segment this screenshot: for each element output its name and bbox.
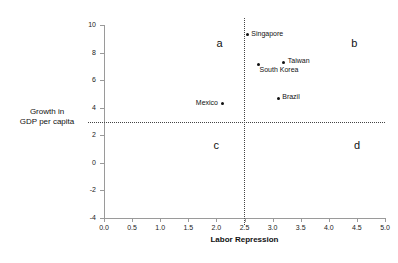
y-tick-label: 6 xyxy=(72,76,96,84)
data-point-label: Brazil xyxy=(282,93,300,101)
x-tick-label: 0.5 xyxy=(117,224,147,232)
x-tick-label: 1.0 xyxy=(145,224,175,232)
x-tick-label: 3.0 xyxy=(258,224,288,232)
data-point-label: Singapore xyxy=(251,30,283,38)
x-tick xyxy=(357,218,358,222)
quadrant-label-a: a xyxy=(216,37,222,49)
x-tick xyxy=(160,218,161,222)
data-point[interactable] xyxy=(282,61,285,64)
x-tick-label: 2.0 xyxy=(201,224,231,232)
x-axis-title: Labor Repression xyxy=(104,235,385,244)
data-point[interactable] xyxy=(246,33,249,36)
x-tick-label: 4.5 xyxy=(342,224,372,232)
y-tick-label: -4 xyxy=(72,214,96,222)
data-point-label: Mexico xyxy=(196,99,218,107)
x-tick xyxy=(301,218,302,222)
x-tick-label: 5.0 xyxy=(370,224,398,232)
reference-line-horizontal xyxy=(88,122,385,123)
x-tick xyxy=(385,218,386,222)
y-tick xyxy=(100,135,104,136)
quadrant-label-c: c xyxy=(214,139,220,151)
x-tick-label: 3.5 xyxy=(286,224,316,232)
y-tick-label: 10 xyxy=(72,21,96,29)
x-tick-label: 4.0 xyxy=(314,224,344,232)
x-tick-label: 0.0 xyxy=(89,224,119,232)
data-point[interactable] xyxy=(277,97,280,100)
y-axis-title-line-2: GDP per capita xyxy=(4,117,90,127)
scatter-chart-figure: 1086420-2-4 0.00.51.01.52.02.53.03.54.04… xyxy=(0,0,398,263)
x-tick xyxy=(245,218,246,222)
x-tick xyxy=(273,218,274,222)
y-axis-title: Growth in GDP per capita xyxy=(4,107,90,127)
x-tick xyxy=(188,218,189,222)
x-tick xyxy=(132,218,133,222)
x-tick xyxy=(104,218,105,222)
quadrant-label-b: b xyxy=(351,37,357,49)
y-tick-label: 0 xyxy=(72,159,96,167)
y-tick xyxy=(100,163,104,164)
y-tick xyxy=(100,80,104,81)
x-tick-label: 2.5 xyxy=(230,224,260,232)
data-point[interactable] xyxy=(221,102,224,105)
y-tick xyxy=(100,53,104,54)
y-tick-label: 2 xyxy=(72,131,96,139)
quadrant-label-d: d xyxy=(354,139,360,151)
y-tick xyxy=(100,25,104,26)
x-tick-label: 1.5 xyxy=(173,224,203,232)
x-tick xyxy=(216,218,217,222)
y-axis-title-line-1: Growth in xyxy=(4,107,90,117)
data-point-label: Taiwan xyxy=(288,57,310,65)
x-tick xyxy=(329,218,330,222)
y-tick-label: 8 xyxy=(72,49,96,57)
y-tick xyxy=(100,190,104,191)
y-tick xyxy=(100,108,104,109)
y-tick-label: -2 xyxy=(72,186,96,194)
data-point-label: South Korea xyxy=(260,66,299,74)
